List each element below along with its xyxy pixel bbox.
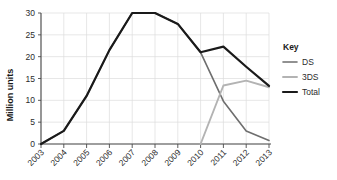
legend-label-ds: DS [302, 57, 314, 67]
y-tick-label: 10 [26, 95, 36, 105]
chart-container: 051015202530 200320042005200620072008200… [0, 0, 337, 180]
y-tick-label: 15 [26, 74, 36, 84]
y-tick-label: 5 [30, 117, 35, 127]
line-chart: 051015202530 200320042005200620072008200… [0, 0, 337, 180]
y-axis-title-text: Million units [5, 69, 15, 122]
legend-label-3ds: 3DS [302, 72, 319, 82]
legend-label-total: Total [302, 87, 320, 97]
plot-background [0, 0, 337, 180]
y-tick-label: 0 [30, 139, 35, 149]
y-tick-label: 25 [26, 30, 36, 40]
legend-title: Key [283, 42, 299, 52]
y-tick-label: 20 [26, 52, 36, 62]
y-tick-label: 30 [26, 8, 36, 18]
y-axis-title: Million units [5, 69, 15, 122]
